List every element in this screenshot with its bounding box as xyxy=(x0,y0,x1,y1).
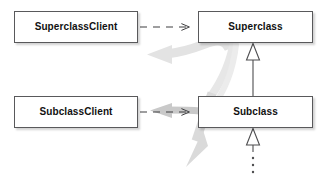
generalization-subclass-to-superclass xyxy=(247,44,260,97)
class-box-subclass-client[interactable]: SubclassClient xyxy=(14,96,138,128)
class-box-subclass[interactable]: Subclass xyxy=(198,96,313,128)
uml-class-diagram: SuperclassClient Superclass SubclassClie… xyxy=(0,0,326,185)
class-name-subclass: Subclass xyxy=(233,107,278,117)
subclass-continuation-dots-icon xyxy=(252,157,254,173)
class-box-superclass-client[interactable]: SuperclassClient xyxy=(14,11,138,43)
class-box-superclass[interactable]: Superclass xyxy=(198,11,313,43)
class-name-superclass: Superclass xyxy=(228,22,282,32)
class-name-subclass-client: SubclassClient xyxy=(39,107,112,117)
highlight-arrow-to-subclass-client xyxy=(150,103,200,118)
class-name-superclass-client: SuperclassClient xyxy=(35,22,118,32)
generalization-further-subclasses-to-subclass xyxy=(247,129,260,153)
highlight-arrow-to-superclass-client xyxy=(147,41,229,64)
